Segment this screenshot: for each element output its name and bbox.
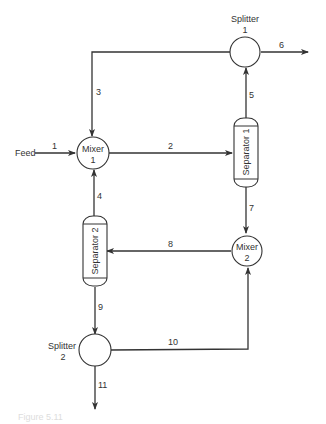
mixer-2: Mixer 2	[232, 236, 262, 266]
stream-label-3: 3	[96, 87, 101, 97]
mixer-2-label: Mixer	[236, 242, 258, 252]
stream-label-1: 1	[52, 141, 57, 151]
stream-label-9: 9	[98, 302, 103, 312]
splitter-1: Splitter 1	[230, 14, 260, 67]
separator-2: Separator 2	[83, 216, 107, 286]
stream-label-7: 7	[249, 203, 254, 213]
stream-label-10: 10	[168, 337, 178, 347]
stream-label-11: 11	[98, 380, 107, 390]
process-flow-diagram: Splitter 1 Mixer 1 Separator 1 Mixer 2 S…	[0, 0, 326, 424]
separator-2-label: Separator 2	[90, 227, 100, 274]
mixer-1: Mixer 1	[77, 137, 109, 169]
splitter-2: Splitter 2	[48, 334, 111, 366]
splitter-1-number: 1	[242, 25, 247, 35]
stream-label-6: 6	[279, 40, 284, 50]
splitter-2-number: 2	[60, 352, 65, 362]
splitter-2-label: Splitter	[48, 341, 76, 351]
stream-label-5: 5	[249, 90, 254, 100]
stream-label-2: 2	[168, 141, 173, 151]
stream-10	[110, 268, 248, 350]
figure-caption: Figure 5.11	[18, 412, 63, 422]
stream-label-4: 4	[97, 191, 102, 201]
mixer-1-number: 1	[90, 155, 95, 165]
splitter-1-label: Splitter	[231, 14, 259, 24]
mixer-1-label: Mixer	[82, 144, 104, 154]
separator-1-label: Separator 1	[241, 128, 251, 175]
feed-label: Feed	[15, 148, 36, 158]
separator-1: Separator 1	[234, 118, 258, 187]
mixer-2-number: 2	[244, 253, 249, 263]
stream-label-8: 8	[168, 239, 173, 249]
stream-3	[92, 52, 230, 136]
